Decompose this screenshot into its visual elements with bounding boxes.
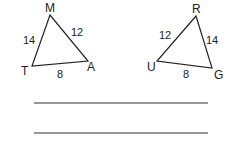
congruent-triangles-diagram: M T A 14 12 8 R U G 12 14 8 [0,0,228,143]
diagram-canvas: M T A 14 12 8 R U G 12 14 8 [0,0,228,143]
vertex-label-r: R [192,2,201,16]
vertex-label-t: T [21,64,29,78]
triangle-mta-shape [32,15,88,66]
triangle-rug: R U G 12 14 8 [147,2,223,82]
vertex-label-m: M [45,1,55,15]
vertex-label-g: G [214,68,223,82]
side-label-rg: 14 [206,34,218,46]
triangle-rug-shape [157,16,212,68]
side-label-ru: 12 [159,29,171,41]
triangle-mta: M T A 14 12 8 [21,1,95,80]
side-label-ug: 8 [183,68,189,80]
vertex-label-a: A [87,60,95,74]
side-label-ta: 8 [57,68,63,80]
side-label-mt: 14 [23,34,35,46]
side-label-ma: 12 [71,26,83,38]
vertex-label-u: U [147,60,156,74]
